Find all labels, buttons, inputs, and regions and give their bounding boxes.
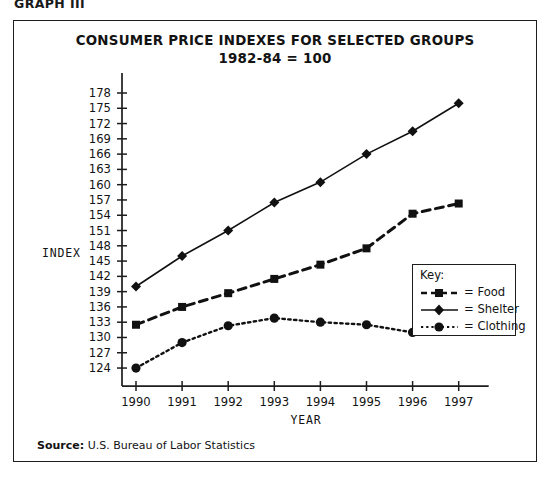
y-tick-label: 160 bbox=[89, 178, 111, 192]
legend-item-clothing: = Clothing bbox=[420, 319, 512, 335]
figure-label: GRAPH III bbox=[14, 0, 85, 11]
x-tick-label: 1994 bbox=[306, 395, 336, 409]
x-tick-label: 1993 bbox=[260, 395, 290, 409]
x-axis-title: YEAR bbox=[291, 413, 322, 427]
y-tick-label: 178 bbox=[89, 86, 111, 100]
y-tick-label: 163 bbox=[89, 162, 111, 176]
data-point bbox=[224, 289, 232, 297]
data-point bbox=[270, 314, 279, 323]
data-point bbox=[223, 226, 233, 236]
legend-swatch-shelter bbox=[420, 302, 460, 318]
y-tick-label: 127 bbox=[89, 346, 111, 360]
y-tick-label: 145 bbox=[89, 254, 111, 268]
legend-swatch-food bbox=[420, 285, 460, 301]
y-tick-label: 151 bbox=[89, 224, 111, 238]
legend: Key: = Food = Shelter bbox=[412, 264, 516, 336]
graph-page: GRAPH III CONSUMER PRICE INDEXES FOR SEL… bbox=[0, 0, 550, 479]
y-tick-label: 166 bbox=[89, 147, 111, 161]
legend-swatch-clothing bbox=[420, 319, 460, 335]
chart-frame: CONSUMER PRICE INDEXES FOR SELECTED GROU… bbox=[13, 20, 537, 462]
data-point bbox=[131, 282, 141, 292]
x-axis-tick-labels: 19901991199219931994199519961997 bbox=[121, 395, 473, 409]
y-tick-label: 157 bbox=[89, 193, 111, 207]
data-point bbox=[316, 318, 325, 327]
data-point bbox=[362, 320, 371, 329]
source-text: U.S. Bureau of Labor Statistics bbox=[88, 439, 255, 452]
x-tick-label: 1990 bbox=[121, 395, 151, 409]
plot-area: 1781751721691661631601571541511481451421… bbox=[14, 21, 538, 463]
data-point bbox=[178, 338, 187, 347]
y-tick-label: 133 bbox=[89, 315, 111, 329]
y-tick-label: 142 bbox=[89, 269, 111, 283]
legend-label-food: = Food bbox=[464, 285, 505, 299]
y-tick-label: 175 bbox=[89, 101, 111, 115]
x-tick-label: 1992 bbox=[213, 395, 243, 409]
y-tick-label: 136 bbox=[89, 300, 111, 314]
data-point bbox=[132, 321, 140, 329]
data-point bbox=[454, 98, 464, 108]
y-tick-label: 172 bbox=[89, 117, 111, 131]
data-point bbox=[408, 126, 418, 136]
y-axis-tick-labels: 1781751721691661631601571541511481451421… bbox=[89, 86, 111, 375]
y-tick-label: 130 bbox=[89, 330, 111, 344]
y-tick-label: 148 bbox=[89, 239, 111, 253]
y-tick-label: 169 bbox=[89, 132, 111, 146]
y-axis-title: INDEX bbox=[42, 246, 81, 260]
legend-label-shelter: = Shelter bbox=[464, 302, 519, 316]
data-point bbox=[455, 200, 463, 208]
data-point bbox=[224, 321, 233, 330]
x-tick-label: 1991 bbox=[167, 395, 197, 409]
data-point bbox=[269, 198, 279, 208]
source-prefix: Source: bbox=[37, 439, 84, 452]
data-point bbox=[131, 363, 140, 372]
data-point bbox=[178, 303, 186, 311]
data-point bbox=[362, 149, 372, 159]
x-tick-label: 1995 bbox=[352, 395, 382, 409]
series-shelter bbox=[131, 98, 464, 291]
y-tick-label: 124 bbox=[89, 361, 111, 375]
y-tick-label: 154 bbox=[89, 208, 111, 222]
chart-svg: 1781751721691661631601571541511481451421… bbox=[14, 21, 538, 463]
data-point bbox=[316, 261, 324, 269]
x-tick-label: 1996 bbox=[398, 395, 428, 409]
legend-item-shelter: = Shelter bbox=[420, 302, 512, 318]
data-point bbox=[409, 210, 417, 218]
legend-heading: Key: bbox=[420, 268, 444, 282]
source-note: Source: U.S. Bureau of Labor Statistics bbox=[37, 439, 255, 452]
legend-item-food: = Food bbox=[420, 285, 512, 301]
y-tick-label: 139 bbox=[89, 285, 111, 299]
data-point bbox=[363, 244, 371, 252]
x-tick-label: 1997 bbox=[444, 395, 474, 409]
data-point bbox=[177, 251, 187, 261]
data-point bbox=[270, 275, 278, 283]
legend-label-clothing: = Clothing bbox=[464, 319, 526, 333]
data-point bbox=[315, 177, 325, 187]
